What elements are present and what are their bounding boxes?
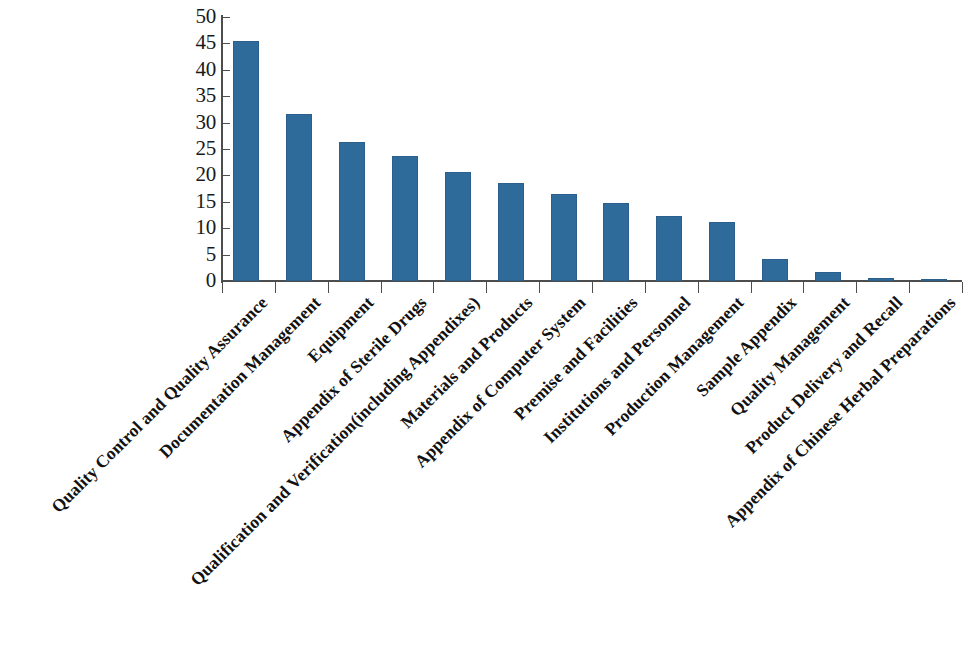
y-axis-tick-label-text: 5 xyxy=(168,244,216,265)
y-axis-tick-label-text: 50 xyxy=(168,6,216,27)
x-axis-tick xyxy=(698,282,699,293)
y-axis-tick-label: 0 xyxy=(168,270,216,291)
bar xyxy=(339,142,365,281)
bar xyxy=(392,156,418,281)
x-axis-tick xyxy=(592,282,593,293)
y-axis-tick-label-text: 35 xyxy=(168,85,216,106)
y-axis-tick-label: 40 xyxy=(168,59,216,80)
y-axis-tick xyxy=(222,123,230,124)
y-axis-tick xyxy=(222,202,230,203)
y-axis-tick-label: 5 xyxy=(168,244,216,265)
x-axis-category-label: Quality Control and Quality Assurance xyxy=(48,293,271,516)
y-axis-tick-label-text: 40 xyxy=(168,59,216,80)
y-axis-tick-label: 45 xyxy=(168,32,216,53)
bar xyxy=(815,272,841,281)
y-axis-tick-label-text: 0 xyxy=(168,270,216,291)
y-axis-tick-label-text: 30 xyxy=(168,112,216,133)
bar xyxy=(445,172,471,281)
y-axis-tick xyxy=(222,149,230,150)
x-axis-tick xyxy=(381,282,382,293)
bar xyxy=(709,222,735,281)
bar xyxy=(921,279,947,281)
x-axis-tick xyxy=(856,282,857,293)
plot-area xyxy=(222,17,962,281)
x-axis-tick xyxy=(328,282,329,293)
y-axis-tick-label: 10 xyxy=(168,217,216,238)
bar xyxy=(551,194,577,281)
y-axis-tick-label: 20 xyxy=(168,164,216,185)
x-axis-tick xyxy=(275,282,276,293)
bar xyxy=(762,259,788,281)
y-axis-tick-label: 35 xyxy=(168,85,216,106)
bar xyxy=(498,183,524,281)
y-axis-tick-label-text: 45 xyxy=(168,32,216,53)
bar xyxy=(286,114,312,281)
x-axis-tick xyxy=(433,282,434,293)
bar xyxy=(868,278,894,281)
y-axis-tick-label-text: 25 xyxy=(168,138,216,159)
x-axis-tick xyxy=(539,282,540,293)
x-axis-tick xyxy=(962,282,963,293)
bar-chart-figure: 05101520253035404550 Quality Control and… xyxy=(0,0,967,658)
bar xyxy=(233,41,259,281)
y-axis-tick-label: 15 xyxy=(168,191,216,212)
x-axis-tick xyxy=(803,282,804,293)
y-axis-tick xyxy=(222,17,230,18)
y-axis-tick-label-text: 20 xyxy=(168,164,216,185)
x-axis-tick xyxy=(486,282,487,293)
bar xyxy=(603,203,629,281)
y-axis-tick xyxy=(222,70,230,71)
y-axis-tick xyxy=(222,175,230,176)
y-axis-tick xyxy=(222,281,230,282)
x-axis-tick xyxy=(751,282,752,293)
y-axis-tick-label: 50 xyxy=(168,6,216,27)
bar xyxy=(656,216,682,281)
y-axis-tick xyxy=(222,228,230,229)
y-axis-tick xyxy=(222,255,230,256)
x-axis-tick xyxy=(645,282,646,293)
x-axis-tick xyxy=(222,282,223,293)
y-axis-tick-label: 30 xyxy=(168,112,216,133)
y-axis-tick xyxy=(222,96,230,97)
x-axis-tick xyxy=(909,282,910,293)
y-axis-tick xyxy=(222,43,230,44)
y-axis-tick-label: 25 xyxy=(168,138,216,159)
y-axis-tick-label-text: 15 xyxy=(168,191,216,212)
y-axis-tick-label-text: 10 xyxy=(168,217,216,238)
